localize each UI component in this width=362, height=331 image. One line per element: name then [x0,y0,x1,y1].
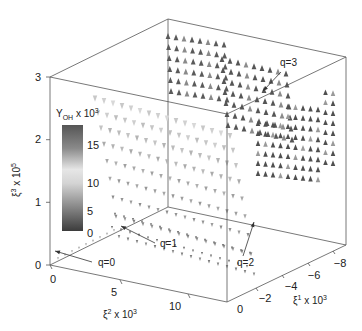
annotation-label: q=3 [280,57,297,68]
cone-glyph [249,116,254,122]
cone-glyph [198,202,201,207]
cone-glyph [268,67,273,73]
cone-glyph [331,140,336,146]
cone-glyph [301,165,306,171]
y-axis-label: ξ1 x 103 [293,294,327,307]
z-tick-1: 1 [35,196,41,208]
cone-glyph [171,194,174,199]
z-tick-0: 0 [35,259,41,271]
data-glyphs [57,33,335,276]
cone-glyph [256,150,261,156]
cone-glyph [277,80,282,86]
cone-glyph [243,214,246,219]
cone-glyph [204,140,208,146]
cone-glyph [192,81,197,87]
cone-glyph [159,128,163,134]
cone-glyph [308,166,313,172]
cone-glyph [231,91,236,97]
cone-glyph [132,166,136,171]
cone-glyph [219,257,221,260]
cone-glyph [78,247,80,250]
cone-glyph [228,260,230,263]
cone-glyph [208,83,213,89]
cone-glyph [201,126,206,132]
y-tick-4: −8 [334,257,347,269]
cone-glyph [181,253,184,257]
colorbar-tick-10: 10 [87,177,99,189]
cone-glyph [185,90,190,96]
cone-glyph [129,106,134,112]
cone-glyph [166,44,171,50]
cone-glyph [191,59,196,65]
cone-glyph [301,175,306,181]
cone-glyph [105,159,109,164]
cone-glyph [228,177,232,182]
cone-glyph [239,93,244,99]
cone-glyph [106,233,108,236]
cone-glyph [184,215,187,219]
cone-glyph [213,189,217,194]
cone-glyph [271,162,276,168]
cone-glyph [166,210,169,214]
cone-glyph [156,239,158,242]
cone-glyph [301,105,306,111]
cone-glyph [228,133,233,139]
annotation-arrow [243,222,254,256]
cone-glyph [256,170,261,176]
cone-glyph [174,162,178,167]
cone-glyph [209,94,214,100]
colorbar-tick-0: 0 [87,227,93,239]
cone-glyph [241,115,246,121]
cone-glyph [85,243,87,246]
cone-glyph [323,109,328,115]
cone-glyph [193,92,198,98]
cone-glyph [175,56,180,62]
cone-glyph [286,173,291,179]
z-axis: 0 1 2 3 ξ3 x 105 [10,71,50,271]
cone-glyph [235,268,238,272]
cone-glyph [99,126,103,132]
cone-glyph [260,65,265,71]
cone-glyph [222,52,227,58]
cone-glyph [190,255,193,259]
cone-glyph [171,146,175,152]
cone-glyph [117,179,120,184]
cone-glyph [177,133,181,139]
cone-glyph [263,161,268,167]
cone-glyph [175,213,178,217]
cone-glyph [114,115,118,121]
cone-glyph [166,33,171,39]
cone-glyph [169,88,174,94]
cone-glyph [323,89,328,95]
cone-glyph [278,173,283,179]
cone-glyph [213,143,217,149]
cone-glyph [206,50,211,56]
cone-glyph [138,108,143,114]
cone-glyph [211,223,214,227]
cone-glyph [331,110,336,116]
cone-glyph [71,250,73,253]
cone-glyph [222,145,226,151]
cone-glyph [271,142,276,148]
cone-glyph [214,51,219,57]
cone-glyph [244,61,249,67]
cone-glyph [191,70,196,76]
cone-glyph [245,72,250,78]
cone-glyph [201,252,203,255]
cone-glyph [184,79,189,85]
cone-glyph [130,200,133,204]
cone-glyph [286,123,291,129]
x-tick-1: 5 [111,286,117,298]
cone-glyph [180,197,183,202]
cone-glyph [293,144,298,150]
cone-glyph [214,40,219,46]
cone-glyph [183,57,188,63]
cone-glyph [168,77,173,83]
cone-glyph [286,92,291,98]
cone-glyph [147,111,152,117]
cone-glyph [199,60,204,66]
cone-glyph [138,152,142,157]
cone-glyph [118,235,121,239]
colorbar-gradient [62,125,83,231]
cone-glyph [229,69,234,75]
